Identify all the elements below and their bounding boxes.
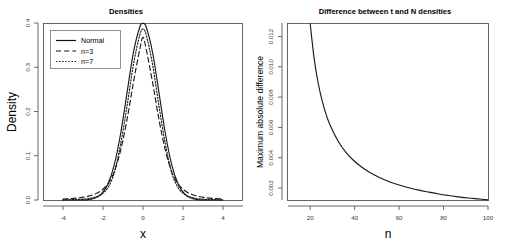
difference-y-axis-label: Maximum absolute difference	[255, 56, 265, 168]
densities-ytick-0: 0.0	[24, 195, 31, 204]
densities-xtick-3: 2	[181, 214, 185, 221]
densities-legend[interactable]: Normal n=3 n=7	[51, 31, 121, 69]
difference-xtick-1: 40	[351, 214, 358, 221]
densities-xtick-4: 4	[221, 214, 225, 221]
difference-plot-title: Difference between t and N densities	[319, 7, 452, 16]
difference-svg: Difference between t and N densities 0.0…	[252, 0, 505, 246]
difference-xtick-4: 100	[483, 214, 494, 221]
densities-xtick-2: 0	[141, 214, 145, 221]
difference-xtick-2: 60	[396, 214, 403, 221]
difference-xtick-3: 80	[440, 214, 447, 221]
difference-ytick-4: 0.010	[267, 58, 274, 74]
difference-y-tick-group	[278, 37, 282, 189]
difference-x-tick-group	[310, 206, 488, 210]
densities-xtick-0: -4	[60, 214, 66, 221]
densities-ytick-3: 0.3	[24, 62, 31, 71]
densities-ytick-2: 0.2	[24, 107, 31, 116]
densities-y-axis-label: Density	[5, 92, 19, 132]
difference-xtick-0: 20	[307, 214, 314, 221]
densities-plot-title: Densities	[109, 7, 143, 16]
difference-curves	[310, 24, 488, 200]
difference-plot-panel: Difference between t and N densities 0.0…	[252, 0, 505, 246]
difference-ytick-3: 0.008	[267, 89, 274, 105]
difference-x-axis: 20 40 60 80 100	[288, 206, 494, 221]
densities-x-tick-group	[63, 206, 223, 210]
densities-plot-panel: Densities 0.0 0.1 0.2 0.3 0.4	[0, 0, 252, 246]
legend-label-normal: Normal	[81, 36, 105, 45]
difference-ytick-2: 0.006	[267, 119, 274, 135]
densities-y-tick-group	[34, 23, 38, 200]
figure-canvas: Densities 0.0 0.1 0.2 0.3 0.4	[0, 0, 505, 246]
densities-xtick-1: -2	[100, 214, 106, 221]
difference-plot-frame	[288, 24, 489, 201]
densities-ytick-4: 0.4	[24, 18, 31, 27]
legend-label-n3: n=3	[81, 47, 93, 56]
densities-svg: Densities 0.0 0.1 0.2 0.3 0.4	[0, 0, 252, 246]
legend-label-n7: n=7	[81, 57, 93, 66]
difference-y-axis: 0.002 0.004 0.006 0.008 0.010 0.012	[267, 23, 282, 200]
densities-ytick-1: 0.1	[24, 151, 31, 160]
difference-x-axis-label: n	[385, 227, 392, 241]
difference-ytick-0: 0.002	[267, 180, 274, 196]
difference-ytick-1: 0.004	[267, 149, 274, 165]
densities-y-axis: 0.0 0.1 0.2 0.3 0.4	[24, 18, 38, 204]
difference-ytick-5: 0.012	[267, 28, 274, 44]
densities-x-axis-label: x	[140, 227, 146, 241]
densities-x-axis: -4 -2 0 2 4	[43, 206, 243, 221]
difference-curve	[310, 24, 488, 200]
